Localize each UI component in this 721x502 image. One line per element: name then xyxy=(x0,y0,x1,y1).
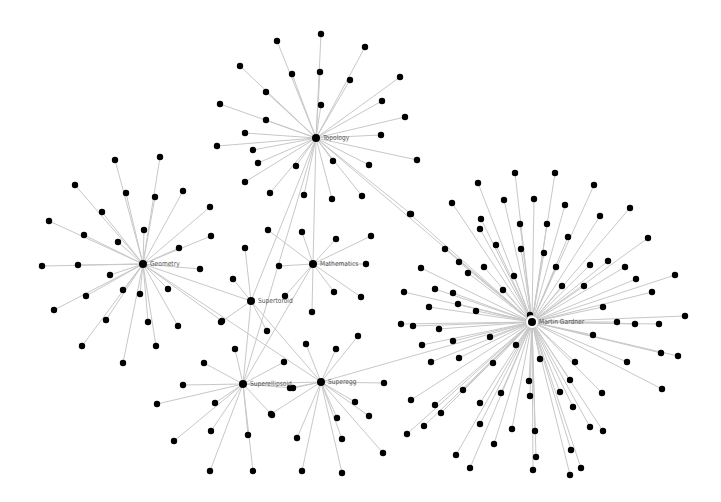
leaf-node[interactable] xyxy=(527,393,533,399)
leaf-node[interactable] xyxy=(421,423,427,429)
leaf-node[interactable] xyxy=(39,263,45,269)
hub-node-superellipsoid[interactable] xyxy=(239,380,247,388)
leaf-node[interactable] xyxy=(180,382,186,388)
leaf-node[interactable] xyxy=(274,38,280,44)
leaf-node[interactable] xyxy=(633,276,639,282)
leaf-node[interactable] xyxy=(51,307,57,313)
leaf-node[interactable] xyxy=(490,360,496,366)
leaf-node[interactable] xyxy=(449,200,455,206)
leaf-node[interactable] xyxy=(672,272,678,278)
leaf-node[interactable] xyxy=(99,209,105,215)
leaf-node[interactable] xyxy=(419,342,425,348)
leaf-node[interactable] xyxy=(501,197,507,203)
leaf-node[interactable] xyxy=(513,342,519,348)
leaf-node[interactable] xyxy=(404,431,410,437)
leaf-node[interactable] xyxy=(309,309,315,315)
leaf-node[interactable] xyxy=(511,273,517,279)
leaf-node[interactable] xyxy=(432,402,438,408)
leaf-node[interactable] xyxy=(294,435,300,441)
hub-node-geometry[interactable] xyxy=(139,260,147,268)
leaf-node[interactable] xyxy=(366,413,372,419)
leaf-node[interactable] xyxy=(517,221,523,227)
leaf-node[interactable] xyxy=(107,272,113,278)
leaf-node[interactable] xyxy=(467,465,473,471)
leaf-node[interactable] xyxy=(578,465,584,471)
leaf-node[interactable] xyxy=(72,182,78,188)
leaf-node[interactable] xyxy=(544,221,550,227)
leaf-node[interactable] xyxy=(267,190,273,196)
leaf-node[interactable] xyxy=(557,389,563,395)
leaf-node[interactable] xyxy=(145,319,151,325)
leaf-node[interactable] xyxy=(460,387,466,393)
leaf-node[interactable] xyxy=(333,236,339,242)
leaf-node[interactable] xyxy=(201,360,207,366)
leaf-node[interactable] xyxy=(103,317,109,323)
leaf-node[interactable] xyxy=(531,196,537,202)
leaf-node[interactable] xyxy=(453,452,459,458)
leaf-node[interactable] xyxy=(562,202,568,208)
leaf-node[interactable] xyxy=(171,438,177,444)
leaf-node[interactable] xyxy=(255,160,261,166)
leaf-node[interactable] xyxy=(137,291,143,297)
leaf-node[interactable] xyxy=(477,421,483,427)
leaf-node[interactable] xyxy=(282,293,288,299)
leaf-node[interactable] xyxy=(581,283,587,289)
leaf-node[interactable] xyxy=(207,468,213,474)
leaf-node[interactable] xyxy=(293,163,299,169)
leaf-node[interactable] xyxy=(512,170,518,176)
leaf-node[interactable] xyxy=(154,401,160,407)
leaf-node[interactable] xyxy=(487,334,493,340)
leaf-node[interactable] xyxy=(333,346,339,352)
leaf-node[interactable] xyxy=(600,428,606,434)
leaf-node[interactable] xyxy=(263,117,269,123)
leaf-node[interactable] xyxy=(572,359,578,365)
hub-node-mathematics[interactable] xyxy=(309,260,317,268)
leaf-node[interactable] xyxy=(478,216,484,222)
leaf-node[interactable] xyxy=(230,276,236,282)
leaf-node[interactable] xyxy=(265,227,271,233)
leaf-node[interactable] xyxy=(591,182,597,188)
leaf-node[interactable] xyxy=(541,250,547,256)
leaf-node[interactable] xyxy=(599,390,605,396)
leaf-node[interactable] xyxy=(232,346,238,352)
leaf-node[interactable] xyxy=(331,289,337,295)
leaf-node[interactable] xyxy=(455,301,461,307)
leaf-node[interactable] xyxy=(330,158,336,164)
leaf-node[interactable] xyxy=(659,386,665,392)
leaf-node[interactable] xyxy=(175,323,181,329)
leaf-node[interactable] xyxy=(559,283,565,289)
hub-node-supertoroid[interactable] xyxy=(247,297,255,305)
leaf-node[interactable] xyxy=(329,196,335,202)
leaf-node[interactable] xyxy=(456,259,462,265)
leaf-node[interactable] xyxy=(242,130,248,136)
leaf-node[interactable] xyxy=(237,63,243,69)
leaf-node[interactable] xyxy=(649,289,655,295)
leaf-node[interactable] xyxy=(355,333,361,339)
leaf-node[interactable] xyxy=(334,415,340,421)
leaf-node[interactable] xyxy=(465,270,471,276)
leaf-node[interactable] xyxy=(208,428,214,434)
leaf-node[interactable] xyxy=(432,286,438,292)
leaf-node[interactable] xyxy=(339,436,345,442)
leaf-node[interactable] xyxy=(303,341,309,347)
leaf-node[interactable] xyxy=(208,233,214,239)
leaf-node[interactable] xyxy=(242,179,248,185)
leaf-node[interactable] xyxy=(456,355,462,361)
hub-node-topology[interactable] xyxy=(312,134,320,142)
leaf-node[interactable] xyxy=(645,235,651,241)
leaf-node[interactable] xyxy=(567,377,573,383)
leaf-node[interactable] xyxy=(436,326,442,332)
leaf-node[interactable] xyxy=(46,218,52,224)
hub-node-martin-gardner[interactable] xyxy=(528,318,536,326)
leaf-node[interactable] xyxy=(568,447,574,453)
leaf-node[interactable] xyxy=(289,71,295,77)
leaf-node[interactable] xyxy=(587,424,593,430)
leaf-node[interactable] xyxy=(301,192,307,198)
leaf-node[interactable] xyxy=(299,468,305,474)
leaf-node[interactable] xyxy=(414,157,420,163)
leaf-node[interactable] xyxy=(157,154,163,160)
leaf-node[interactable] xyxy=(526,378,532,384)
network-graph[interactable] xyxy=(0,0,721,502)
leaf-node[interactable] xyxy=(587,262,593,268)
leaf-node[interactable] xyxy=(197,266,203,272)
